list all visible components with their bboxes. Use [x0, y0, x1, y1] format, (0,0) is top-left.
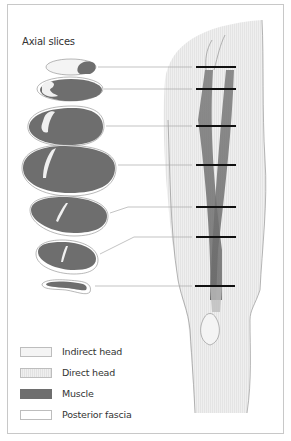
- legend-item-posterior-fascia: Posterior fascia: [20, 404, 132, 425]
- legend-label: Indirect head: [62, 346, 122, 357]
- figure-title: Axial slices: [22, 36, 75, 47]
- posterior-fascia-swatch: [20, 410, 52, 420]
- legend-label: Posterior fascia: [62, 409, 132, 420]
- legend-label: Direct head: [62, 367, 115, 378]
- legend-item-muscle: Muscle: [20, 383, 132, 404]
- legend-label: Muscle: [62, 388, 94, 399]
- indirect-head-swatch: [20, 347, 52, 357]
- axial-slice-7: [42, 280, 91, 294]
- muscle-swatch: [20, 389, 52, 399]
- axial-slice-1: [46, 59, 96, 75]
- axial-slice-3: [28, 106, 104, 146]
- axial-slice-6: [36, 240, 98, 274]
- direct-head-swatch: [20, 368, 52, 378]
- legend-item-indirect-head: Indirect head: [20, 341, 132, 362]
- axial-slice-5: [30, 196, 108, 236]
- axial-slice-2: [37, 77, 103, 101]
- legend: Indirect head Direct head Muscle Posteri…: [20, 341, 132, 425]
- axial-slice-4: [22, 145, 116, 196]
- legend-item-direct-head: Direct head: [20, 362, 132, 383]
